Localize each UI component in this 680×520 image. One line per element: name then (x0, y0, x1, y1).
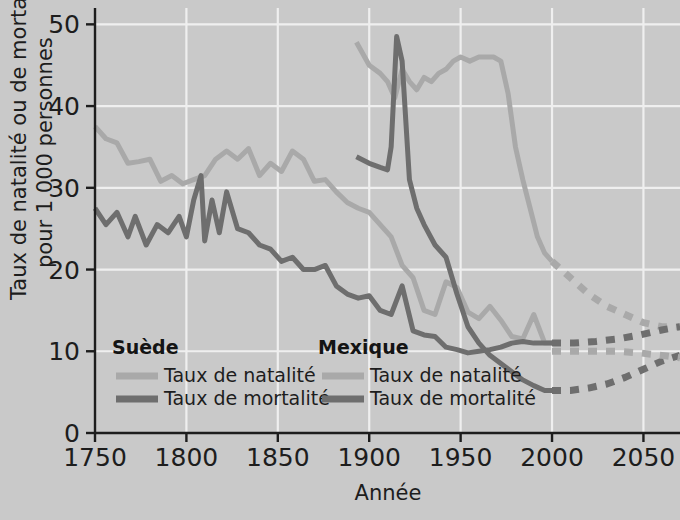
chart-page: 010203040501750180018501900195020002050 … (0, 0, 680, 520)
y-axis-tick-label: 50 (48, 10, 80, 39)
x-axis-tick-label: 1750 (63, 443, 127, 472)
chart-svg: 010203040501750180018501900195020002050 … (0, 0, 680, 520)
legend-group-heading: Suède (112, 336, 179, 358)
y-axis-tick-label: 10 (48, 337, 80, 366)
x-axis-tick-label: 2000 (520, 443, 584, 472)
legend-entry-label: Taux de mortalité (369, 387, 536, 409)
x-axis-title: Année (355, 481, 422, 505)
y-axis-title-line2: pour 1 000 personnes (33, 37, 57, 268)
x-axis-tick-label: 1950 (429, 443, 493, 472)
legend-group-heading: Mexique (318, 336, 409, 358)
legend-entry-label: Taux de mortalité (163, 387, 330, 409)
x-axis-tick-label: 2050 (612, 443, 676, 472)
chart-figure: 010203040501750180018501900195020002050 … (0, 0, 680, 520)
x-axis-tick-label: 1800 (155, 443, 219, 472)
legend-entry-label: Taux de natalité (369, 364, 522, 386)
x-axis-tick-label: 1850 (246, 443, 310, 472)
y-axis-title-line1: Taux de natalité ou de mortalité (7, 0, 31, 301)
x-axis-tick-label: 1900 (337, 443, 401, 472)
legend-entry-label: Taux de natalité (163, 364, 316, 386)
